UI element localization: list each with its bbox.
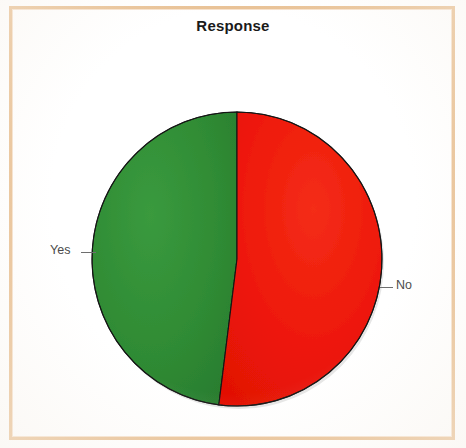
pie-chart: Yes No — [0, 0, 466, 448]
pie-chart-svg — [0, 0, 466, 448]
screenshot-root: Response — [0, 0, 466, 448]
pie-slice-no[interactable] — [219, 112, 382, 406]
leader-line-yes — [81, 252, 96, 253]
pie-slice-yes[interactable] — [92, 112, 237, 405]
leader-line-no — [380, 287, 393, 288]
pie-label-yes: Yes — [50, 243, 70, 257]
pie-label-no: No — [396, 278, 412, 292]
